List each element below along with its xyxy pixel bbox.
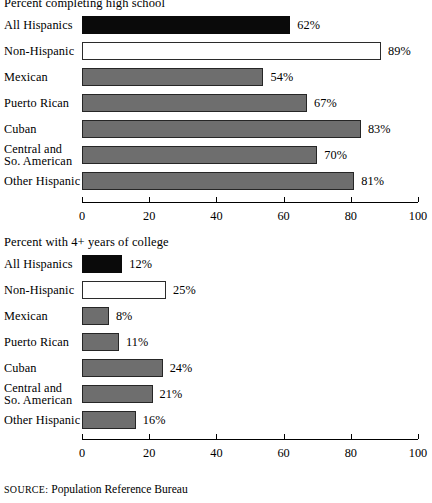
bar-value-label: 67%: [314, 96, 337, 111]
axis-tick-label: 60: [277, 446, 289, 461]
bar-container: 89%: [82, 42, 428, 60]
bar: [82, 359, 163, 377]
bar: [82, 42, 381, 60]
plot-area-high-school: All Hispanics62%Non-Hispanic89%Mexican54…: [0, 12, 432, 194]
bar: [82, 146, 317, 164]
axis-tick: [351, 197, 352, 202]
source-text: Population Reference Bureau: [51, 483, 188, 496]
axis-tick: [149, 197, 150, 202]
bar-row: Other Hispanic16%: [0, 407, 432, 433]
axis-tick-label: 20: [143, 446, 155, 461]
axis-tick: [216, 434, 217, 439]
axis-tick-label: 60: [277, 209, 289, 224]
bar-container: 16%: [82, 411, 428, 429]
bar: [82, 307, 109, 325]
axis-tick: [284, 197, 285, 202]
axis-tick-label: 20: [143, 209, 155, 224]
bar-value-label: 24%: [170, 361, 193, 376]
axis-tick: [216, 197, 217, 202]
bar-row: Other Hispanic81%: [0, 168, 432, 194]
axis-line: [82, 439, 418, 440]
bar-row: All Hispanics12%: [0, 251, 432, 277]
bar-value-label: 89%: [388, 44, 411, 59]
axis-tick: [418, 197, 419, 202]
bar-value-label: 81%: [361, 174, 384, 189]
bar-row: Puerto Rican11%: [0, 329, 432, 355]
axis-tick: [351, 434, 352, 439]
bar: [82, 172, 354, 190]
bar-value-label: 70%: [324, 148, 347, 163]
bar-row: Cuban24%: [0, 355, 432, 381]
axis-tick-label: 80: [345, 209, 357, 224]
axis-tick-label: 40: [210, 209, 222, 224]
bar-value-label: 83%: [368, 122, 391, 137]
bar-row: Puerto Rican67%: [0, 90, 432, 116]
bar-value-label: 11%: [126, 335, 148, 350]
axis-line: [82, 202, 418, 203]
bar-value-label: 8%: [116, 309, 133, 324]
chart-high-school: Percent completing high school All Hispa…: [0, 0, 432, 232]
axis-tick: [284, 434, 285, 439]
bar-container: 25%: [82, 281, 428, 299]
axis-tick: [418, 434, 419, 439]
axis-tick-label: 100: [409, 209, 427, 224]
bar-value-label: 12%: [129, 257, 152, 272]
chart-title: Percent completing high school: [4, 0, 165, 10]
bar: [82, 120, 361, 138]
axis-tick: [82, 434, 83, 439]
bar-value-label: 62%: [297, 18, 320, 33]
bar-container: 67%: [82, 94, 428, 112]
bar-row: Central andSo. American21%: [0, 381, 432, 407]
axis-tick: [149, 434, 150, 439]
bar: [82, 333, 119, 351]
bar: [82, 385, 153, 403]
axis-tick-label: 0: [79, 446, 85, 461]
axis-tick-label: 0: [79, 209, 85, 224]
bar-container: 83%: [82, 120, 428, 138]
bar-row: All Hispanics62%: [0, 12, 432, 38]
bar-value-label: 54%: [270, 70, 293, 85]
bar: [82, 68, 263, 86]
axis-tick-label: 100: [409, 446, 427, 461]
chart-title: Percent with 4+ years of college: [4, 236, 169, 249]
plot-area-college: All Hispanics12%Non-Hispanic25%Mexican8%…: [0, 251, 432, 433]
bar-row: Cuban83%: [0, 116, 432, 142]
axis-tick-label: 80: [345, 446, 357, 461]
bar-row: Non-Hispanic25%: [0, 277, 432, 303]
bar-value-label: 25%: [173, 283, 196, 298]
bar-container: 8%: [82, 307, 428, 325]
bar-container: 21%: [82, 385, 428, 403]
bar: [82, 16, 290, 34]
bar-row: Mexican54%: [0, 64, 432, 90]
source-note: SOURCE: Population Reference Bureau: [4, 483, 188, 496]
bar: [82, 411, 136, 429]
bar-container: 62%: [82, 16, 428, 34]
axis-tick: [82, 197, 83, 202]
bar-container: 12%: [82, 255, 428, 273]
bar: [82, 94, 307, 112]
bar-row: Mexican8%: [0, 303, 432, 329]
bar-row: Central andSo. American70%: [0, 142, 432, 168]
bar-row: Non-Hispanic89%: [0, 38, 432, 64]
chart-college: Percent with 4+ years of college All His…: [0, 236, 432, 476]
bar-container: 11%: [82, 333, 428, 351]
bar-value-label: 16%: [143, 413, 166, 428]
bar-container: 81%: [82, 172, 428, 190]
axis-tick-label: 40: [210, 446, 222, 461]
bar-container: 54%: [82, 68, 428, 86]
source-prefix: SOURCE:: [4, 484, 48, 495]
bar: [82, 255, 122, 273]
bar-value-label: 21%: [160, 387, 183, 402]
bar-container: 70%: [82, 146, 428, 164]
bar: [82, 281, 166, 299]
bar-container: 24%: [82, 359, 428, 377]
